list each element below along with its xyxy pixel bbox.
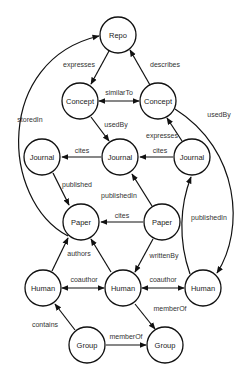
edge-label-cites-3: cites xyxy=(115,212,130,219)
edge-paper-publishedin-journal xyxy=(132,174,152,206)
node-label: Human xyxy=(31,284,55,293)
node-label: Concept xyxy=(66,97,95,106)
node-journal-middle: Journal xyxy=(102,139,138,175)
edge-label-publishedin-1: publishedIn xyxy=(101,192,137,200)
node-paper-right: Paper xyxy=(144,204,180,240)
node-group-left: Group xyxy=(69,327,105,363)
node-label: Paper xyxy=(71,218,92,227)
edge-repo-expresses-concept xyxy=(91,51,109,84)
node-human-right: Human xyxy=(185,270,221,306)
edge-label-publishedin-2: publishedIn xyxy=(191,214,227,222)
edge-label-contains: contains xyxy=(32,321,59,328)
edge-concept-describes-repo xyxy=(130,50,150,85)
edge-label-writtenby: writtenBy xyxy=(149,252,179,260)
edge-label-expresses-1: expresses xyxy=(63,61,95,69)
nodes: Repo Concept Concept Journal Journal Jou… xyxy=(24,17,221,363)
node-repo: Repo xyxy=(100,17,136,53)
node-label: Journal xyxy=(180,153,205,162)
node-concept-right: Concept xyxy=(140,83,176,119)
knowledge-graph-diagram: expresses describes similarTo storedIn u… xyxy=(0,0,239,377)
edge-human-publishedin-journal xyxy=(182,177,191,274)
edge-label-authors: authors xyxy=(67,250,91,257)
node-label: Human xyxy=(191,284,215,293)
node-human-left: Human xyxy=(25,270,61,306)
edge-label-storedin: storedIn xyxy=(17,116,42,123)
edge-label-expresses-2: expresses xyxy=(146,132,178,140)
node-journal-right: Journal xyxy=(174,139,210,175)
node-label: Concept xyxy=(144,97,173,106)
node-label: Group xyxy=(155,341,176,350)
node-label: Journal xyxy=(108,153,133,162)
edge-label-published: published xyxy=(62,181,92,189)
edge-human-authors-paper xyxy=(52,238,68,271)
edge-label-cites-1: cites xyxy=(75,147,90,154)
edge-label-memberof-1: memberOf xyxy=(153,305,186,312)
edge-label-memberof-2: memberOf xyxy=(109,333,142,340)
node-label: Human xyxy=(111,284,135,293)
edge-human-memberof-group xyxy=(135,304,155,329)
edge-label-usedby-2: usedBy xyxy=(207,111,231,119)
edge-label-coauthor-2: coauthor xyxy=(149,276,177,283)
node-concept-left: Concept xyxy=(62,83,98,119)
node-label: Paper xyxy=(152,218,173,227)
node-label: Group xyxy=(77,341,98,350)
edge-journal-published-paper xyxy=(53,173,69,205)
edge-human-to-paper xyxy=(91,239,111,272)
edge-label-cites-2: cites xyxy=(153,147,168,154)
node-paper-left: Paper xyxy=(63,204,99,240)
node-journal-left: Journal xyxy=(24,139,60,175)
edge-label-coauthor-1: coauthor xyxy=(70,276,98,283)
edge-label-similarto: similarTo xyxy=(105,89,133,96)
edge-label-usedby-1: usedBy xyxy=(104,121,128,129)
node-group-right: Group xyxy=(147,327,183,363)
edge-label-describes: describes xyxy=(150,61,180,68)
node-label: Repo xyxy=(109,31,127,40)
node-label: Journal xyxy=(30,153,55,162)
node-human-middle: Human xyxy=(105,270,141,306)
